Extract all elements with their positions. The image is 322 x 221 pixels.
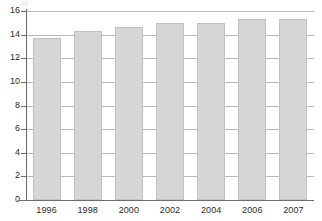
y-tick-label: 14: [0, 30, 20, 39]
x-axis-line: [18, 200, 314, 201]
bar-chart: 0246810121416 19961998200020022004200620…: [0, 0, 322, 221]
bar[interactable]: [115, 27, 143, 200]
y-tick-label: 2: [0, 171, 20, 180]
x-tick-label: 2006: [232, 205, 272, 215]
top-artifact-mark: [21, 1, 28, 6]
bar[interactable]: [156, 23, 184, 200]
x-tick-label: 2004: [191, 205, 231, 215]
x-tick-label: 2000: [109, 205, 149, 215]
y-tick-label: 0: [0, 195, 20, 204]
x-tick-label: 2002: [150, 205, 190, 215]
bar[interactable]: [238, 19, 266, 200]
x-tick-label: 1996: [27, 205, 67, 215]
bar[interactable]: [279, 19, 307, 200]
x-tick-label: 1998: [68, 205, 108, 215]
y-tick-label: 6: [0, 124, 20, 133]
y-tick-label: 16: [0, 6, 20, 15]
y-tick-label: 4: [0, 148, 20, 157]
bar[interactable]: [74, 31, 102, 201]
y-tick-label: 12: [0, 53, 20, 62]
y-tick-label: 8: [0, 101, 20, 110]
plot-area: [26, 11, 314, 200]
y-tick-label: 10: [0, 77, 20, 86]
x-tick-label: 2007: [273, 205, 313, 215]
bar[interactable]: [33, 38, 61, 200]
bar[interactable]: [197, 23, 225, 200]
